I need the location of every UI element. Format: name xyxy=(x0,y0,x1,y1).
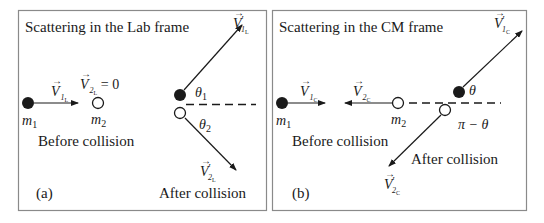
vector-symbol: V xyxy=(353,85,362,99)
subscript-frame: L xyxy=(94,90,98,96)
angle2-label: θ2 xyxy=(199,118,211,134)
panel-a-before-caption: Before collision xyxy=(38,134,134,149)
angle1-label: θ1 xyxy=(195,86,207,102)
subscript-frame: L xyxy=(245,29,249,35)
panel-a-frame xyxy=(19,11,267,211)
angle2-label: π − θ xyxy=(458,118,488,132)
subscript-frame: C xyxy=(367,97,371,103)
panel-a-title: Scattering in the Lab frame xyxy=(25,20,189,35)
panel-a-label: (a) xyxy=(36,186,53,201)
panel-b-title: Scattering in the CM frame xyxy=(279,20,443,35)
subscript-frame: L xyxy=(65,97,69,103)
v1-after-label: V′1L xyxy=(233,14,249,35)
vector-symbol: V xyxy=(384,178,393,192)
v1-after-label: V′1C xyxy=(494,14,510,35)
angle-symbol: θ xyxy=(195,85,202,100)
subscript-frame: L xyxy=(212,177,216,183)
angle-index: 2 xyxy=(206,123,211,134)
mass-symbol: m xyxy=(391,112,401,127)
mass2-label: m2 xyxy=(391,113,406,129)
angle-index: 1 xyxy=(202,91,207,102)
mass-symbol: m xyxy=(22,113,32,128)
mass-index: 2 xyxy=(401,118,406,129)
subscript-frame: C xyxy=(314,97,318,103)
vector-symbol: V xyxy=(80,78,89,92)
mass-index: 1 xyxy=(286,119,291,130)
subscript-frame: C xyxy=(396,190,400,196)
v1-before-label: V1L xyxy=(51,85,68,103)
v2-before-label: V2L = 0 xyxy=(80,78,119,96)
v2-before-label: V2C xyxy=(353,85,371,103)
mass2-ball-open xyxy=(93,98,104,109)
angle-symbol: θ xyxy=(199,117,206,132)
mass1-after-ball-filled xyxy=(453,86,465,98)
panel-b-after-caption: After collision xyxy=(411,152,498,167)
mass1-label: m1 xyxy=(276,114,291,130)
vector-symbol: V xyxy=(200,165,209,179)
mass-index: 2 xyxy=(101,118,106,129)
v2-after-label: V′2L xyxy=(200,162,216,183)
mass1-after-ball-filled xyxy=(174,89,186,101)
panel-b-before-caption: Before collision xyxy=(292,134,388,149)
mass-symbol: m xyxy=(276,113,286,128)
vector-symbol: V xyxy=(51,85,60,99)
subscript-frame: C xyxy=(506,29,510,35)
mass1-label: m1 xyxy=(22,114,37,130)
panel-a-after-caption: After collision xyxy=(159,186,246,201)
vector-symbol: V xyxy=(300,85,309,99)
mass-index: 1 xyxy=(32,119,37,130)
mass1-ball-filled xyxy=(276,97,288,109)
angle1-label: θ xyxy=(469,84,476,98)
equals-zero: = 0 xyxy=(101,77,119,92)
v2-after-label: V′2C xyxy=(384,175,400,196)
mass2-label: m2 xyxy=(91,113,106,129)
mass-symbol: m xyxy=(91,112,101,127)
panel-b-label: (b) xyxy=(292,186,310,201)
mass2-ball-open xyxy=(393,98,404,109)
mass2-after-ball-open xyxy=(440,105,451,116)
mass2-after-ball-open xyxy=(175,108,186,119)
vector-symbol: V xyxy=(233,17,242,31)
mass1-ball-filled xyxy=(22,97,34,109)
vector-symbol: V xyxy=(494,17,503,31)
v1-before-label: V1C xyxy=(300,85,318,103)
